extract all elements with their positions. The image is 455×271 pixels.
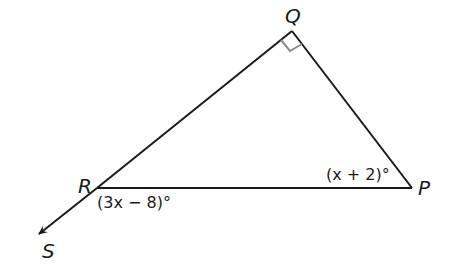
angle-label-exterior-r: (3x − 8)°	[97, 193, 171, 212]
right-angle-mark	[281, 40, 302, 51]
triangle-diagram: Q R P S (x + 2)° (3x − 8)°	[0, 0, 455, 271]
vertex-label-s: S	[42, 239, 55, 263]
angle-label-p: (x + 2)°	[326, 165, 390, 184]
segment-rq	[97, 31, 292, 188]
vertex-label-r: R	[78, 174, 92, 198]
vertex-label-p: P	[418, 176, 431, 200]
vertex-label-q: Q	[285, 4, 301, 28]
